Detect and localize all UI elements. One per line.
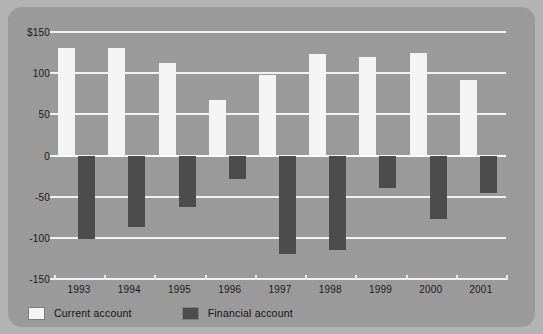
x-axis-label-1998: 1998 <box>319 284 342 295</box>
bar-group <box>355 32 405 279</box>
bar-current-account <box>159 63 176 155</box>
bar-group <box>456 32 506 279</box>
bar-financial-account <box>430 156 447 219</box>
bar-financial-account <box>279 156 296 255</box>
x-axis-tick <box>104 275 106 280</box>
y-axis-tick-label: -150 <box>6 274 50 285</box>
y-axis-labels: $150100500-50-100-150 <box>6 32 50 279</box>
x-axis-tick <box>154 275 156 280</box>
bar-current-account <box>259 75 276 156</box>
x-axis-label-1994: 1994 <box>118 284 141 295</box>
x-axis-labels: 199319941995199619971998199920002001 <box>54 284 506 300</box>
bar-group <box>154 32 204 279</box>
y-axis-tick-label: -100 <box>6 232 50 243</box>
legend-swatch-current <box>28 307 45 320</box>
bar-financial-account <box>379 156 396 189</box>
bars-layer <box>54 32 506 279</box>
bar-current-account <box>460 80 477 156</box>
legend-swatch-financial <box>182 307 199 320</box>
bar-group <box>205 32 255 279</box>
bar-current-account <box>309 54 326 155</box>
y-axis-tick-label: 50 <box>6 109 50 120</box>
y-axis-tick-label: 0 <box>6 150 50 161</box>
x-axis-label-2001: 2001 <box>469 284 492 295</box>
x-axis-label-1997: 1997 <box>268 284 291 295</box>
x-axis-label-1995: 1995 <box>168 284 191 295</box>
bar-financial-account <box>329 156 346 251</box>
x-axis-tick <box>355 275 357 280</box>
bar-financial-account <box>78 156 95 240</box>
legend-label: Current account <box>54 307 132 319</box>
x-axis-label-1993: 1993 <box>68 284 91 295</box>
bar-current-account <box>108 48 125 156</box>
x-axis-tick <box>54 275 56 280</box>
x-axis-tick <box>406 275 408 280</box>
x-axis-tick <box>255 275 257 280</box>
bar-group <box>406 32 456 279</box>
bar-financial-account <box>480 156 497 194</box>
bar-financial-account <box>229 156 246 179</box>
x-axis-tick <box>205 275 207 280</box>
chart-card: $150100500-50-100-150 199319941995199619… <box>8 7 535 327</box>
bar-current-account <box>58 48 75 156</box>
bar-current-account <box>209 100 226 156</box>
y-axis-tick-label: 100 <box>6 68 50 79</box>
bar-financial-account <box>128 156 145 228</box>
bar-group <box>255 32 305 279</box>
bar-financial-account <box>179 156 196 208</box>
x-axis-tick <box>506 275 508 280</box>
legend-entry-current: Current account <box>28 307 132 320</box>
x-axis-tick <box>305 275 307 280</box>
bar-current-account <box>410 53 427 156</box>
bar-group <box>104 32 154 279</box>
x-axis-label-1996: 1996 <box>218 284 241 295</box>
legend-entry-financial: Financial account <box>182 307 293 320</box>
chart-legend: Current accountFinancial account <box>28 304 343 322</box>
bar-group <box>54 32 104 279</box>
x-axis <box>54 279 506 280</box>
x-axis-label-1999: 1999 <box>369 284 392 295</box>
bar-group <box>305 32 355 279</box>
legend-label: Financial account <box>208 307 293 319</box>
plot-area <box>54 32 506 279</box>
y-axis-tick-label: $150 <box>6 27 50 38</box>
y-axis-tick-label: -50 <box>6 191 50 202</box>
bar-current-account <box>359 57 376 156</box>
x-axis-tick <box>456 275 458 280</box>
x-axis-label-2000: 2000 <box>419 284 442 295</box>
